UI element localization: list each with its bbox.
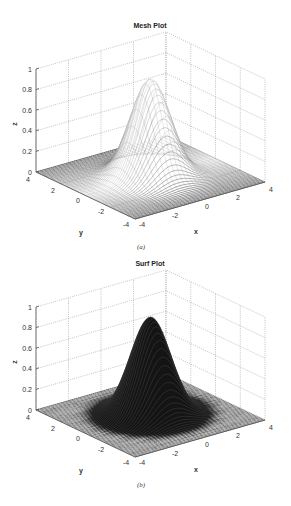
y-tick: -4 — [123, 221, 129, 228]
caption-b: (b) — [137, 481, 146, 489]
y-tick: 4 — [26, 414, 30, 421]
caption-a: (a) — [137, 243, 146, 251]
y-tick: -2 — [98, 208, 104, 215]
z-tick: 0.6 — [22, 345, 32, 352]
surf-plot-surface — [36, 317, 265, 457]
figure: Mesh Plot 1 0.8 0.6 0.4 0.2 0 z 4 2 0 -2… — [0, 0, 291, 506]
x-tick: -2 — [172, 212, 178, 219]
x-tick: 0 — [205, 441, 209, 448]
z-tick: 0.6 — [22, 107, 32, 114]
y-tick: -2 — [98, 446, 104, 453]
z-tick: 0.4 — [22, 365, 32, 372]
z-tick: 0.2 — [22, 386, 32, 393]
mesh-plot-title: Mesh Plot — [133, 22, 167, 29]
mesh-plot: Mesh Plot 1 0.8 0.6 0.4 0.2 0 z 4 2 0 -2… — [11, 22, 273, 251]
x-tick: 4 — [269, 186, 273, 193]
surf-plot-title: Surf Plot — [135, 260, 165, 267]
z-tick: 0.8 — [22, 86, 32, 93]
z-tick: 0 — [28, 407, 32, 414]
x-tick: -2 — [172, 450, 178, 457]
y-axis-label: y — [79, 229, 83, 237]
y-tick: 2 — [51, 425, 55, 432]
x-axis-label: x — [194, 466, 198, 473]
y-axis-label: y — [79, 467, 83, 475]
y-tick: 2 — [51, 187, 55, 194]
z-tick: 0.2 — [22, 148, 32, 155]
z-tick: 0.8 — [22, 324, 32, 331]
x-axis-label: x — [194, 228, 198, 235]
z-tick: 1 — [28, 304, 32, 311]
z-tick: 0 — [28, 169, 32, 176]
y-tick: 0 — [76, 197, 80, 204]
y-tick: 4 — [26, 176, 30, 183]
x-tick: 2 — [236, 432, 240, 439]
z-axis-label: z — [11, 122, 18, 126]
x-tick: -4 — [139, 221, 145, 228]
y-tick: -4 — [123, 459, 129, 466]
y-tick: 0 — [76, 435, 80, 442]
surf-plot: Surf Plot 1 0.8 0.6 0.4 0.2 0 z 4 2 0 -2… — [11, 260, 273, 489]
x-tick: 0 — [205, 203, 209, 210]
x-tick: 4 — [269, 424, 273, 431]
z-axis-label: z — [11, 360, 18, 364]
z-tick: 1 — [28, 66, 32, 73]
x-tick: 2 — [236, 194, 240, 201]
z-tick: 0.4 — [22, 127, 32, 134]
x-tick: -4 — [139, 459, 145, 466]
